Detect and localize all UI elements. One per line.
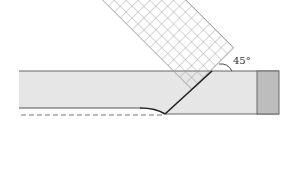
diagram-canvas	[0, 0, 297, 186]
angle-arc	[219, 64, 232, 71]
diagram: 45°	[0, 0, 297, 186]
end-block	[257, 71, 279, 114]
angle-label: 45°	[233, 55, 251, 66]
